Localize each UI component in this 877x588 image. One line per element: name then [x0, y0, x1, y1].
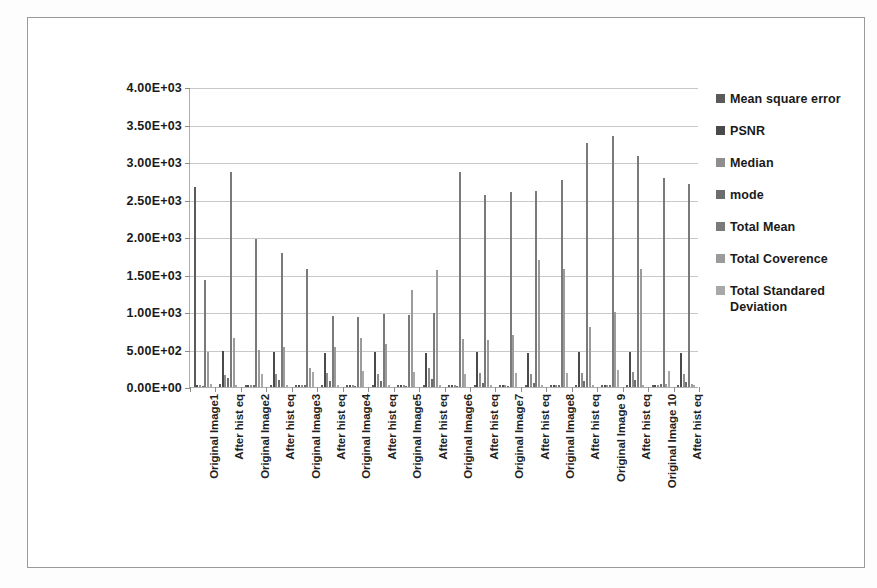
bar	[194, 187, 196, 387]
bar	[283, 347, 285, 388]
y-axis-label: 2.00E+03	[127, 231, 182, 245]
x-axis-label: Original Image2	[259, 394, 271, 479]
bar	[474, 385, 476, 387]
legend-item[interactable]: Mean square error	[716, 91, 876, 112]
bar	[273, 352, 275, 387]
legend-item[interactable]: Total Coverence	[716, 251, 876, 272]
legend-item[interactable]: mode	[716, 187, 876, 208]
bar	[680, 353, 682, 388]
bar	[253, 385, 255, 387]
x-axis-label: After hist eq	[386, 394, 398, 460]
bar	[245, 385, 247, 387]
bar-group	[470, 88, 495, 387]
legend-item-label: Total Coverence	[730, 251, 828, 267]
x-axis-tick	[368, 387, 369, 392]
bar	[423, 385, 425, 387]
x-axis-tick	[648, 387, 649, 392]
legend-item[interactable]: Median	[716, 155, 876, 176]
bar	[403, 385, 405, 387]
bar	[583, 381, 585, 387]
x-axis-tick	[292, 387, 293, 392]
bar	[693, 385, 695, 387]
bar	[668, 371, 670, 387]
bar-group	[572, 88, 597, 387]
bar	[456, 386, 458, 388]
x-axis-label: Original Image7	[513, 394, 525, 479]
bar	[660, 384, 662, 387]
legend-swatch-icon	[716, 126, 725, 135]
y-axis-label: 1.00E+03	[127, 306, 182, 320]
legend-item[interactable]: Total Standared Deviation	[716, 283, 876, 315]
bar	[352, 385, 354, 387]
bar	[199, 385, 201, 387]
bar	[637, 156, 639, 387]
chart-frame: 0.00E+005.00E+021.00E+031.50E+032.00E+03…	[27, 17, 865, 568]
legend-item-label: mode	[730, 187, 764, 203]
bar	[349, 385, 351, 387]
bar	[309, 368, 311, 387]
bar	[400, 385, 402, 387]
legend-item-label: PSNR	[730, 123, 765, 139]
bar-group	[343, 88, 368, 387]
bar	[433, 313, 435, 387]
y-axis-label: 1.50E+03	[127, 269, 182, 283]
bar	[555, 385, 557, 387]
bar	[499, 385, 501, 387]
bar-group	[521, 88, 546, 387]
bar	[380, 381, 382, 387]
x-axis-label: After hist eq	[437, 394, 449, 460]
x-axis-label: Original Image3	[310, 394, 322, 479]
bar	[222, 351, 224, 387]
y-axis-label: 0.00E+00	[127, 381, 182, 395]
bar	[685, 382, 687, 387]
x-axis-tick	[394, 387, 395, 392]
bar	[405, 386, 407, 388]
bar	[575, 385, 577, 387]
bar	[535, 191, 537, 388]
x-axis-tick	[572, 387, 573, 392]
chart-legend: Mean square errorPSNRMedianmodeTotal Mea…	[716, 91, 876, 326]
x-axis-tick	[674, 387, 675, 392]
bar	[372, 385, 374, 387]
bar	[479, 373, 481, 387]
bar	[304, 385, 306, 387]
bar	[408, 315, 410, 387]
bar	[250, 385, 252, 387]
bar	[640, 269, 642, 387]
bar	[504, 385, 506, 387]
y-axis-label: 2.50E+03	[127, 194, 182, 208]
bar	[247, 385, 249, 387]
legend-item-label: Total Mean	[730, 219, 795, 235]
bar	[629, 352, 631, 387]
legend-item[interactable]: PSNR	[716, 123, 876, 144]
bar	[428, 368, 430, 387]
bar	[337, 385, 339, 387]
legend-item[interactable]: Total Mean	[716, 219, 876, 240]
bar	[507, 386, 509, 388]
bar	[566, 373, 568, 387]
bar	[230, 172, 232, 387]
bar	[512, 335, 514, 388]
bar	[332, 316, 334, 387]
bar-group	[445, 88, 470, 387]
bar	[235, 385, 237, 387]
bar	[431, 379, 433, 387]
bar	[525, 385, 527, 387]
bar	[439, 385, 441, 387]
x-axis-tick	[521, 387, 522, 392]
bar-group	[368, 88, 393, 387]
bar	[510, 192, 512, 387]
x-axis-label: After hist eq	[539, 394, 551, 460]
chart-screenshot: 0.00E+005.00E+021.00E+031.50E+032.00E+03…	[0, 0, 877, 588]
legend-swatch-icon	[716, 158, 725, 167]
bar-group	[597, 88, 622, 387]
legend-item-label: Mean square error	[730, 91, 841, 107]
bar	[354, 386, 356, 388]
bar-group	[241, 88, 266, 387]
bar	[258, 350, 260, 387]
legend-swatch-icon	[716, 190, 725, 199]
bar	[224, 375, 226, 387]
bar	[691, 384, 693, 387]
bar	[324, 353, 326, 388]
bar	[413, 372, 415, 387]
